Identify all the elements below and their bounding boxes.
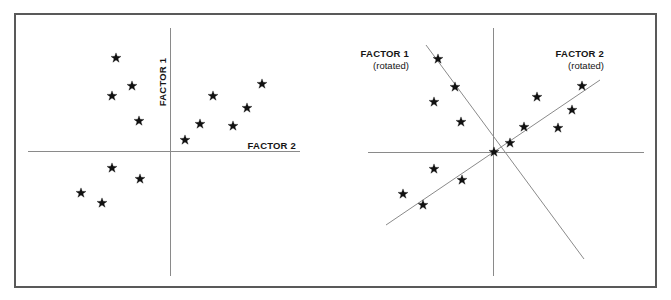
rotated-factor-plot: FACTOR 1 (rotated) FACTOR 2 (rotated): [361, 28, 644, 276]
rotated-data-points: [398, 54, 587, 209]
figure-canvas: FACTOR 1 FACTOR 2 FACTOR 1 (rotated) FAC…: [0, 0, 671, 300]
star-marker: [242, 103, 252, 112]
unrotated-factor-plot: FACTOR 1 FACTOR 2: [28, 28, 300, 276]
star-marker: [180, 135, 190, 144]
unrotated-vertical-axis-label: FACTOR 1: [157, 57, 168, 106]
star-marker: [111, 53, 121, 62]
star-marker: [519, 122, 529, 131]
star-marker: [107, 163, 117, 172]
factor-rotation-figure: FACTOR 1 FACTOR 2 FACTOR 1 (rotated) FAC…: [0, 0, 671, 300]
star-marker: [553, 123, 563, 132]
star-marker: [208, 91, 218, 100]
rotated-factor1-label-line2: (rotated): [373, 60, 409, 71]
unrotated-horizontal-axis-label: FACTOR 2: [248, 140, 296, 151]
rotated-factor2-label-line1: FACTOR 2: [556, 48, 604, 59]
star-marker: [456, 117, 466, 126]
rotated-factor2-label-line2: (rotated): [568, 60, 604, 71]
star-marker: [429, 164, 439, 173]
star-marker: [398, 189, 408, 198]
star-marker: [97, 198, 107, 207]
star-marker: [577, 81, 587, 90]
star-marker: [257, 79, 267, 88]
star-marker: [532, 92, 542, 101]
star-marker: [567, 105, 577, 114]
star-marker: [429, 97, 439, 106]
star-marker: [76, 188, 86, 197]
star-marker: [418, 200, 428, 209]
star-marker: [135, 174, 145, 183]
unrotated-data-points: [76, 53, 267, 207]
star-marker: [195, 119, 205, 128]
star-marker: [134, 116, 144, 125]
rotated-factor1-label-line1: FACTOR 1: [361, 48, 410, 59]
star-marker: [228, 121, 238, 130]
star-marker: [127, 81, 137, 90]
star-marker: [107, 91, 117, 100]
